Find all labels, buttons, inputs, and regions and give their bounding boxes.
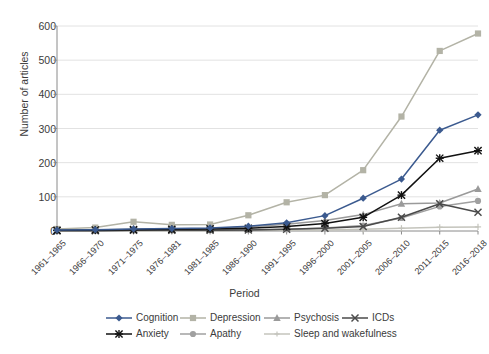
marker-star [115, 330, 123, 338]
legend-label: Cognition [136, 312, 178, 324]
legend-swatch [106, 312, 132, 324]
legend-label: ICDs [372, 312, 394, 324]
legend-item-psychosis[interactable]: Psychosis [264, 312, 342, 324]
legend-item-apathy[interactable]: Apathy [180, 328, 264, 340]
chart-legend: CognitionDepressionPsychosisICDsAnxietyA… [106, 310, 476, 342]
legend-swatch [264, 312, 290, 324]
legend-label: Anxiety [136, 328, 169, 340]
chart-figure: Number of articles 6005004003002001000 1… [0, 0, 489, 354]
legend-item-icds[interactable]: ICDs [342, 312, 402, 324]
legend-item-cognition[interactable]: Cognition [106, 312, 180, 324]
legend-item-anxiety[interactable]: Anxiety [106, 328, 180, 340]
marker-diamond [115, 314, 122, 321]
legend-label: Depression [210, 312, 261, 324]
legend-swatch [180, 312, 206, 324]
x-axis-tick-labels: 1961–19651966–19701971–19751976–19811981… [0, 0, 489, 354]
legend-swatch [264, 328, 290, 340]
marker-plus [274, 331, 279, 336]
legend-row: CognitionDepressionPsychosisICDs [106, 310, 476, 326]
legend-label: Psychosis [294, 312, 339, 324]
legend-row: AnxietyApathySleep and wakefulness [106, 326, 476, 342]
legend-swatch [342, 312, 368, 324]
legend-swatch [106, 328, 132, 340]
legend-label: Apathy [210, 328, 241, 340]
legend-item-sleep-and-wakefulness[interactable]: Sleep and wakefulness [264, 328, 464, 340]
marker-square [190, 315, 196, 321]
legend-label: Sleep and wakefulness [294, 328, 397, 340]
x-axis-title: Period [0, 287, 489, 299]
legend-item-depression[interactable]: Depression [180, 312, 264, 324]
marker-circle [190, 331, 196, 337]
legend-swatch [180, 328, 206, 340]
